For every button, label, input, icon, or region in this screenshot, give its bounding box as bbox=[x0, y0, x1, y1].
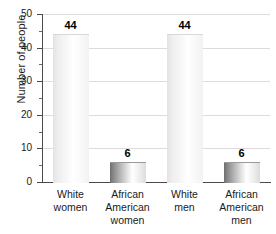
bar bbox=[110, 162, 146, 183]
bar bbox=[167, 34, 203, 183]
x-category-label-line: White bbox=[42, 188, 99, 201]
y-tick-label: 40 bbox=[0, 43, 32, 53]
x-category-label: Whitewomen bbox=[42, 188, 99, 214]
y-tick-major bbox=[37, 14, 42, 15]
bar-value-label: 44 bbox=[165, 20, 205, 31]
x-category-label-line: African bbox=[99, 188, 156, 201]
y-tick-major bbox=[37, 182, 42, 183]
y-axis-line bbox=[42, 14, 43, 183]
x-category-label-line: American bbox=[213, 201, 270, 214]
y-tick-label: 50 bbox=[0, 9, 32, 19]
y-tick-minor bbox=[39, 64, 42, 65]
bar-value-label: 6 bbox=[222, 148, 262, 159]
y-tick-minor bbox=[39, 165, 42, 166]
bar bbox=[53, 34, 89, 183]
x-category-label: Whitemen bbox=[156, 188, 213, 214]
x-category-label-line: White bbox=[156, 188, 213, 201]
y-tick-major bbox=[37, 48, 42, 49]
y-tick-label: 30 bbox=[0, 76, 32, 86]
x-category-label: AfricanAmericanwomen bbox=[99, 188, 156, 227]
x-category-label-line: men bbox=[156, 201, 213, 214]
bar bbox=[224, 162, 260, 183]
bar-chart: Number of people 01020304050 446446 Whit… bbox=[0, 0, 276, 234]
y-tick-label: 20 bbox=[0, 110, 32, 120]
y-tick-minor bbox=[39, 132, 42, 133]
bar-value-label: 44 bbox=[51, 20, 91, 31]
x-category-label-line: African bbox=[213, 188, 270, 201]
y-tick-major bbox=[37, 81, 42, 82]
bar-value-label: 6 bbox=[108, 148, 148, 159]
y-tick-label: 0 bbox=[0, 177, 32, 187]
y-tick-minor bbox=[39, 98, 42, 99]
y-tick-major bbox=[37, 115, 42, 116]
x-category-label-line: women bbox=[99, 214, 156, 227]
x-category-label-line: men bbox=[213, 214, 270, 227]
x-category-label-line: women bbox=[42, 201, 99, 214]
x-category-label-line: American bbox=[99, 201, 156, 214]
x-category-label: AfricanAmericanmen bbox=[213, 188, 270, 227]
y-tick-minor bbox=[39, 31, 42, 32]
y-tick-major bbox=[37, 148, 42, 149]
y-tick-label: 10 bbox=[0, 143, 32, 153]
gridline bbox=[42, 14, 270, 15]
